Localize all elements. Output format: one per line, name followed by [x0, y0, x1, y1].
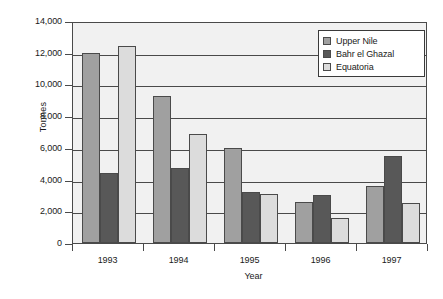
bar	[153, 96, 171, 243]
y-tick-mark	[65, 85, 72, 86]
legend-swatch	[323, 37, 331, 45]
y-tick-mark	[65, 244, 72, 245]
y-tick-label: 2,000	[14, 207, 62, 216]
x-axis-title: Year	[0, 271, 443, 281]
legend-item: Bahr el Ghazal	[323, 47, 420, 60]
y-tick-label: 14,000	[14, 17, 62, 26]
y-tick-mark	[65, 22, 72, 23]
bar	[366, 186, 384, 243]
x-tick-label: 1995	[220, 255, 280, 265]
x-tick-mark	[143, 244, 144, 251]
legend-swatch	[323, 63, 331, 71]
y-tick-mark	[65, 212, 72, 213]
x-tick-mark	[356, 244, 357, 251]
x-tick-mark	[214, 244, 215, 251]
bar	[100, 173, 118, 243]
y-tick-label: 4,000	[14, 176, 62, 185]
x-tick-label: 1993	[78, 255, 138, 265]
legend-label: Bahr el Ghazal	[336, 49, 394, 59]
x-tick-label: 1994	[149, 255, 209, 265]
bar	[402, 203, 420, 243]
x-tick-label: 1997	[362, 255, 422, 265]
y-tick-label: 6,000	[14, 144, 62, 153]
x-axis-title-text: Year	[244, 271, 262, 281]
bar	[118, 46, 136, 243]
legend-item: Upper Nile	[323, 34, 420, 47]
x-tick-mark	[285, 244, 286, 251]
bar	[260, 194, 278, 243]
y-tick-label: 12,000	[14, 49, 62, 58]
y-tick-mark	[65, 117, 72, 118]
bar	[82, 53, 100, 243]
y-tick-mark	[65, 149, 72, 150]
legend-label: Equatoria	[336, 62, 374, 72]
bar	[171, 168, 189, 243]
x-tick-mark	[72, 244, 73, 251]
bar	[331, 218, 349, 243]
y-tick-label: 10,000	[14, 80, 62, 89]
y-tick-label: 0	[14, 239, 62, 248]
bar	[295, 202, 313, 243]
x-tick-label: 1996	[291, 255, 351, 265]
bar	[242, 192, 260, 243]
legend-item: Equatoria	[323, 60, 420, 73]
y-tick-label: 8,000	[14, 112, 62, 121]
y-tick-mark	[65, 54, 72, 55]
chart-legend: Upper NileBahr el GhazalEquatoria	[318, 30, 425, 77]
bar	[313, 195, 331, 243]
bar	[384, 156, 402, 243]
bar	[189, 134, 207, 243]
bar-chart: Tonnes 02,0004,0006,0008,00010,00012,000…	[0, 0, 443, 299]
legend-swatch	[323, 50, 331, 58]
legend-label: Upper Nile	[336, 36, 378, 46]
y-tick-mark	[65, 181, 72, 182]
x-tick-mark	[427, 244, 428, 251]
bar	[224, 148, 242, 243]
